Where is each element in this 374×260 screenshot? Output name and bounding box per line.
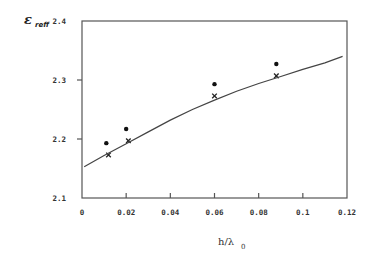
- x-tick-label: 0.12: [338, 208, 356, 217]
- marks: [84, 56, 342, 166]
- x-tick-label: 0.04: [161, 208, 180, 217]
- data-point-cross: [212, 94, 217, 99]
- series-curve: [84, 56, 342, 166]
- x-axis-label: h/λ: [218, 236, 235, 247]
- data-point-dot: [104, 141, 108, 145]
- x-tick-label: 0.06: [205, 208, 224, 217]
- ticks: 00.020.040.060.080.10.122.12.22.32.4: [52, 17, 356, 217]
- x-tick-label: 0.02: [117, 208, 135, 217]
- y-tick-label: 2.1: [52, 194, 66, 203]
- x-tick-label: 0: [80, 208, 85, 217]
- data-point-dot: [274, 62, 278, 66]
- plot-frame: [82, 21, 347, 198]
- y-tick-label: 2.3: [52, 76, 66, 85]
- x-tick-label: 0.1: [296, 208, 310, 217]
- chart: 00.020.040.060.080.10.122.12.22.32.4 ε r…: [0, 0, 374, 260]
- x-axis-label-subscript: 0: [241, 243, 245, 251]
- data-point-dot: [212, 82, 216, 86]
- y-axis-label-subscript: reff: [35, 21, 50, 29]
- y-axis-label: ε: [24, 12, 32, 27]
- y-tick-label: 2.4: [52, 17, 66, 26]
- x-tick-label: 0.08: [250, 208, 269, 217]
- data-point-dot: [124, 127, 128, 131]
- y-tick-label: 2.2: [52, 135, 66, 144]
- axes: [82, 21, 347, 198]
